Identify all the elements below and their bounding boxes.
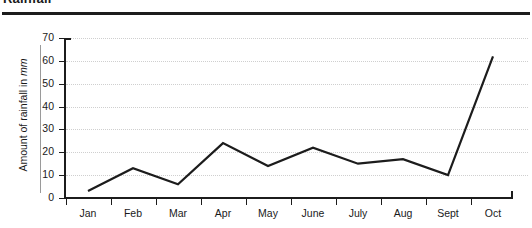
rainfall-chart-figure: Rainfall Amount of rainfall in mm 010203… [0,0,532,228]
rainfall-series-line [0,0,532,228]
plot-area: Amount of rainfall in mm 010203040506070… [0,0,532,228]
